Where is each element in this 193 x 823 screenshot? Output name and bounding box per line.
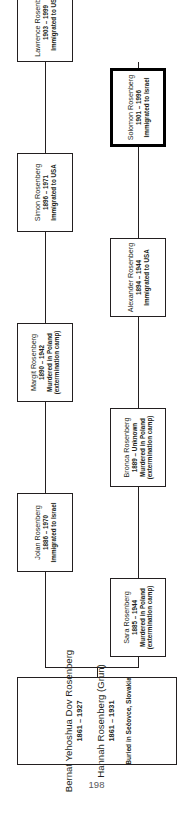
- child-dates: 1896 – 1971: [41, 175, 49, 210]
- child-dates: 1901 – 1996: [134, 90, 142, 125]
- child-node: Simon Rosenberg1896 – 1971Immigrated to …: [17, 153, 73, 232]
- child-name: Jolan Rosenberg: [32, 505, 41, 559]
- mother-name: Hannah Rosenberg (Grun): [94, 664, 105, 778]
- mother-dates: 1861 – 1931: [106, 664, 115, 778]
- child-node: Margit Rosenberg1890 – 1942Murdered in P…: [17, 323, 73, 402]
- child-node: Alexander Rosenberg1894 – 1944Immigrated…: [110, 238, 166, 317]
- parents-node: Bernat Yehoshua Dov Rosenberg 1861 – 192…: [17, 677, 177, 765]
- child-name: Alexander Rosenberg: [125, 243, 134, 313]
- child-name: Lawrence Rosenberg: [32, 0, 41, 57]
- child-note: Murdered in Poland: [138, 418, 146, 477]
- child-name: Sara Rosenberg: [121, 591, 130, 643]
- burial-note: Buried in Sečovce, Slovakia: [124, 677, 131, 765]
- child-note: Immigrated to Israel: [49, 503, 57, 563]
- child-dates: 1889 – Unknown: [130, 423, 138, 472]
- child-note-secondary: (extermination camp): [146, 416, 154, 480]
- child-name: Solomon Rosenberg: [125, 75, 134, 141]
- child-node: Solomon Rosenberg1901 – 1996Immigrated t…: [110, 68, 166, 147]
- genealogy-chart: Bernat Yehoshua Dov Rosenberg 1861 – 192…: [12, 0, 182, 773]
- child-note: Immigrated to USA: [49, 0, 57, 51]
- child-dates: 1894 – 1944: [134, 260, 142, 295]
- child-dates: 1885 – 1944: [130, 600, 138, 635]
- child-note: Immigrated to USA: [142, 249, 150, 306]
- child-name: Simon Rosenberg: [32, 164, 41, 222]
- child-dates: 1886 – 1970: [41, 515, 49, 550]
- child-note-secondary: (extermination camp): [53, 331, 61, 395]
- connector-horizontal: [97, 667, 98, 677]
- child-note: Immigrated to Israel: [142, 78, 150, 138]
- child-node: Lawrence Rosenberg1903 – 1999Immigrated …: [17, 0, 73, 62]
- page-number: 198: [0, 779, 193, 790]
- child-note: Immigrated to USA: [49, 164, 57, 221]
- child-note: Murdered in Poland: [138, 588, 146, 647]
- child-node: Bronca Rosenberg1889 – UnknownMurdered i…: [110, 408, 166, 487]
- father-entry: Bernat Yehoshua Dov Rosenberg 1861 – 192…: [62, 650, 83, 792]
- connector-vertical: [45, 667, 138, 668]
- child-node: Jolan Rosenberg1886 – 1970Immigrated to …: [17, 493, 73, 572]
- father-name: Bernat Yehoshua Dov Rosenberg: [62, 650, 73, 792]
- chart-canvas: Bernat Yehoshua Dov Rosenberg 1861 – 192…: [12, 0, 182, 773]
- page-canvas: Bernat Yehoshua Dov Rosenberg 1861 – 192…: [0, 0, 193, 823]
- child-note-secondary: (extermination camp): [146, 586, 154, 650]
- child-name: Margit Rosenberg: [28, 334, 37, 391]
- child-name: Bronca Rosenberg: [121, 418, 130, 478]
- child-dates: 1903 – 1999: [41, 5, 49, 40]
- child-node: Sara Rosenberg1885 – 1944Murdered in Pol…: [110, 578, 166, 657]
- child-dates: 1890 – 1942: [37, 345, 45, 380]
- mother-entry: Hannah Rosenberg (Grun) 1861 – 1931: [94, 664, 115, 778]
- father-dates: 1861 – 1927: [74, 650, 83, 792]
- child-note: Murdered in Poland: [45, 333, 53, 392]
